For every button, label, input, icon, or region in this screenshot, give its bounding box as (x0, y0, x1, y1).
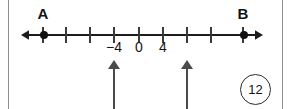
tick-mark (186, 27, 188, 43)
right-arrow-icon (248, 27, 264, 43)
problem-number-text: 12 (248, 82, 262, 97)
number-line-axis (28, 34, 256, 36)
number-label: 4 (159, 40, 167, 54)
tick-mark (65, 27, 67, 43)
number-label: 0 (135, 40, 143, 54)
page-frame-rule-right (282, 0, 283, 109)
number-line-figure: AB −404 12 (0, 0, 287, 109)
number-label: −4 (106, 40, 122, 54)
problem-number-badge: 12 (240, 74, 271, 105)
page-frame-rule-left (8, 0, 9, 109)
point-label-b: B (238, 6, 249, 21)
point-dot-b (240, 31, 248, 39)
point-dot-a (40, 31, 48, 39)
tick-mark (89, 27, 91, 43)
pointer-arrow-left (107, 60, 121, 109)
pointer-arrow-right (180, 60, 194, 109)
left-arrow-icon (20, 27, 36, 43)
tick-mark (210, 27, 212, 43)
point-label-a: A (38, 6, 49, 21)
